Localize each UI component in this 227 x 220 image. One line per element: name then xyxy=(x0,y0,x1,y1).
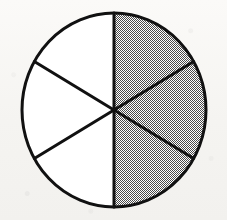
fraction-circle-figure xyxy=(0,0,227,220)
pie-chart xyxy=(0,0,227,220)
shaded-sectors-group xyxy=(114,13,206,207)
